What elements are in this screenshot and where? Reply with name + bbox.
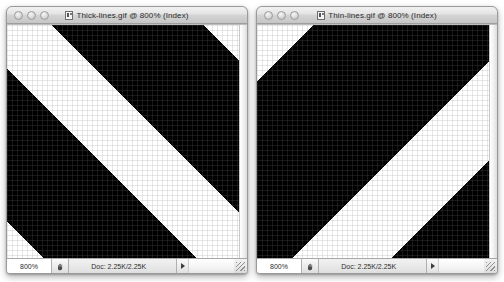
- zoom-level-field[interactable]: 800%: [257, 259, 302, 273]
- minimize-button[interactable]: [27, 11, 36, 20]
- window-controls: [264, 11, 299, 20]
- close-button[interactable]: [14, 11, 23, 20]
- canvas-area: [257, 24, 497, 258]
- window-statusbar: 800% Doc: 2.25K/2.25K: [257, 258, 497, 273]
- triangle-right-glyph: [181, 263, 185, 269]
- vertical-scrollbar[interactable]: [239, 25, 247, 258]
- canvas-area: [7, 24, 247, 258]
- window-statusbar: 800% Doc: 2.25K/2.25K: [7, 258, 247, 273]
- image-canvas-thin-lines[interactable]: [257, 25, 489, 258]
- zoom-button[interactable]: [290, 11, 299, 20]
- image-canvas-thick-lines[interactable]: [7, 25, 239, 258]
- zoom-level-field[interactable]: 800%: [7, 259, 52, 273]
- vertical-scrollbar[interactable]: [489, 25, 497, 258]
- horizontal-scrollbar[interactable]: [438, 259, 484, 273]
- window-title: Thick-lines.gif @ 800% (Index): [76, 11, 188, 20]
- diagonal-band-pattern: [257, 25, 489, 258]
- document-image-icon: [65, 11, 73, 20]
- document-size-value: Doc: 2.25K/2.25K: [341, 263, 396, 270]
- hand-icon[interactable]: [302, 259, 319, 273]
- document-size-value: Doc: 2.25K/2.25K: [91, 263, 146, 270]
- window-titlebar[interactable]: Thin-lines.gif @ 800% (Index): [257, 7, 497, 24]
- horizontal-scrollbar[interactable]: [188, 259, 234, 273]
- triangle-right-icon[interactable]: [177, 259, 188, 273]
- document-image-icon: [317, 11, 325, 20]
- image-window-thin-lines[interactable]: Thin-lines.gif @ 800% (Index) 800% Doc: …: [256, 6, 498, 274]
- zoom-level-value: 800%: [20, 263, 38, 270]
- close-button[interactable]: [264, 11, 273, 20]
- triangle-right-glyph: [431, 263, 435, 269]
- triangle-right-icon[interactable]: [427, 259, 438, 273]
- diagonal-band-pattern: [7, 25, 239, 258]
- zoom-level-value: 800%: [270, 263, 288, 270]
- image-window-thick-lines[interactable]: Thick-lines.gif @ 800% (Index) 800% Doc:…: [6, 6, 248, 274]
- window-titlebar[interactable]: Thick-lines.gif @ 800% (Index): [7, 7, 247, 24]
- resize-grip-icon[interactable]: [484, 259, 497, 273]
- document-size-info: Doc: 2.25K/2.25K: [319, 259, 427, 273]
- hand-icon[interactable]: [52, 259, 69, 273]
- window-title: Thin-lines.gif @ 800% (Index): [328, 11, 436, 20]
- zoom-button[interactable]: [40, 11, 49, 20]
- resize-grip-icon[interactable]: [234, 259, 247, 273]
- minimize-button[interactable]: [277, 11, 286, 20]
- window-controls: [14, 11, 49, 20]
- document-size-info: Doc: 2.25K/2.25K: [69, 259, 177, 273]
